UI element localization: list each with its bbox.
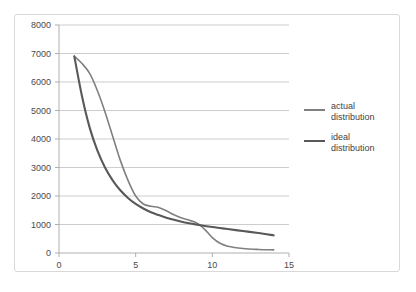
x-axis-tick-label: 5: [133, 260, 138, 270]
legend-item-actual[interactable]: actual distribution: [304, 101, 400, 123]
y-axis-tick-label: 8000: [31, 20, 51, 30]
y-axis-tick-label: 5000: [31, 106, 51, 116]
legend-label-actual: actual distribution: [331, 101, 393, 123]
y-axis-tick-label: 1000: [31, 220, 51, 230]
y-axis-tick-label: 0: [46, 248, 51, 258]
chart-legend: actual distribution ideal distribution: [304, 101, 400, 163]
y-axis-tick-label: 3000: [31, 163, 51, 173]
series-line-ideal: [74, 56, 273, 235]
y-axis-tick-label: 2000: [31, 191, 51, 201]
legend-line-swatch-actual: [304, 104, 325, 114]
legend-item-ideal[interactable]: ideal distribution: [304, 132, 400, 154]
x-axis-tick-label: 15: [284, 260, 294, 270]
x-axis-tick-label: 10: [207, 260, 217, 270]
y-axis-tick-label: 7000: [31, 49, 51, 59]
x-axis-tick-label: 0: [56, 260, 61, 270]
y-axis-tick-label: 6000: [31, 77, 51, 87]
legend-line-swatch-ideal: [304, 135, 325, 145]
chart-frame: 010002000300040005000600070008000051015 …: [14, 14, 400, 272]
legend-label-ideal: ideal distribution: [331, 132, 393, 154]
y-axis-tick-label: 4000: [31, 134, 51, 144]
